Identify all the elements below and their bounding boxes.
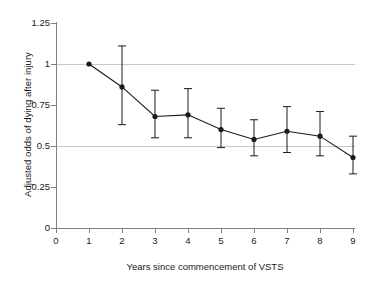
data-point (218, 127, 223, 132)
data-point (86, 61, 91, 66)
data-series-layer (0, 0, 380, 282)
error-bars-group (118, 46, 357, 174)
data-point (185, 112, 190, 117)
chart-figure: Adjusted odds of dying after injury Year… (0, 0, 380, 282)
data-point (284, 129, 289, 134)
data-point (251, 137, 256, 142)
data-point (152, 114, 157, 119)
data-point (350, 155, 355, 160)
data-point (119, 84, 124, 89)
data-point (317, 134, 322, 139)
